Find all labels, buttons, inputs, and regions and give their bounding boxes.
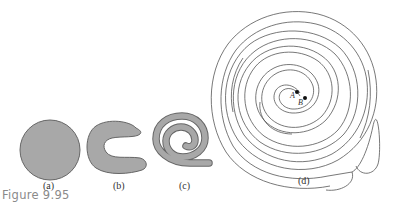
figure-graphics: [0, 0, 405, 208]
panel-b-label: (b): [113, 180, 125, 191]
panel-b-c-shape: [87, 121, 146, 173]
point-b-label: B: [298, 98, 303, 107]
panel-c-spiral-fill: [156, 116, 209, 163]
figure-caption: Figure 9.95: [2, 188, 70, 202]
point-a-label: A: [290, 91, 295, 100]
panel-d-maze: [211, 12, 379, 191]
point-b-marker: [303, 96, 307, 100]
point-a-marker: [295, 90, 299, 94]
panel-a-circle: [20, 120, 80, 180]
panel-d-label: (d): [298, 175, 310, 186]
panel-c-label: (c): [179, 180, 190, 191]
